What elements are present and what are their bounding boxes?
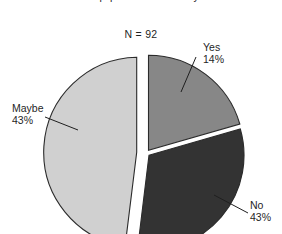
pie-label-maybe-name: Maybe: [12, 102, 44, 114]
pie-label-no-name: No: [250, 199, 271, 211]
pie-slice-maybe[interactable]: [44, 57, 137, 234]
pie-chart: new equipment in the next year N = 92 Ye…: [0, 0, 282, 234]
pie-label-yes-name: Yes: [203, 41, 224, 53]
pie-label-no-percent: 43%: [250, 211, 271, 223]
pie-label-no: No 43%: [250, 199, 271, 223]
pie-label-maybe: Maybe 43%: [12, 102, 44, 126]
pie-label-yes-percent: 14%: [203, 53, 224, 65]
pie-label-yes: Yes 14%: [203, 41, 224, 65]
pie-label-maybe-percent: 43%: [12, 114, 44, 126]
